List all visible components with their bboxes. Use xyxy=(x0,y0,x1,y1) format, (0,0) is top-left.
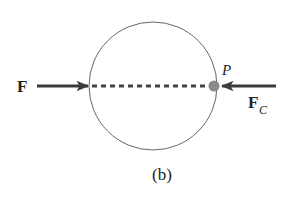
caption: (b) xyxy=(152,165,172,184)
label-p: P xyxy=(221,62,231,78)
label-f: F xyxy=(17,77,27,96)
label-fc: F xyxy=(248,93,258,112)
point-p-dot xyxy=(209,81,220,92)
body-circle xyxy=(89,22,217,150)
force-diagram: F P F C (b) xyxy=(0,0,301,199)
label-fc-subscript: C xyxy=(259,103,268,117)
